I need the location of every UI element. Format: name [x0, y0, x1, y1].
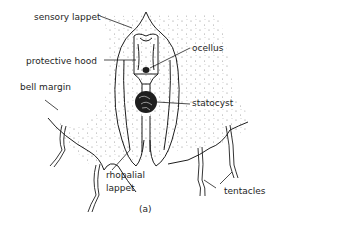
label-rhopalial-line2: lappet: [106, 183, 135, 193]
label-protective-hood: protective hood: [26, 56, 97, 66]
label-tentacles: tentacles: [224, 186, 266, 196]
label-ocellus: ocellus: [192, 43, 223, 53]
figure-caption: (a): [139, 204, 152, 214]
label-sensory-lappet: sensory lappet: [34, 12, 101, 22]
label-statocyst: statocyst: [192, 98, 233, 108]
label-bell-margin: bell margin: [20, 82, 71, 92]
rhopalium-diagram: [0, 0, 351, 226]
ocellus-spot: [143, 67, 150, 73]
label-rhopalial-line1: rhopalial: [106, 170, 145, 180]
bell-tissue-stipple: [48, 15, 248, 165]
